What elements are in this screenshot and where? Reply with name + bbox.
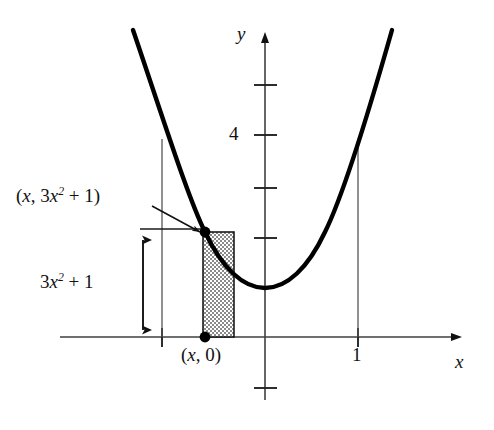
representative-rectangle xyxy=(203,232,234,337)
y-tick-four-label: 4 xyxy=(229,124,239,143)
base-point-dot xyxy=(200,332,211,343)
y-axis-label: y xyxy=(237,24,245,43)
x-tick-one-label: 1 xyxy=(352,345,362,364)
height-label: 3x2 + 1 xyxy=(40,272,94,291)
base-point-label: (x, 0) xyxy=(181,345,221,364)
upper-point-label: (x, 3x2 + 1) xyxy=(16,186,100,205)
graph-figure xyxy=(0,0,494,430)
upper-point-dot xyxy=(200,227,211,238)
parabola-curve xyxy=(133,30,392,288)
point-leader-line xyxy=(152,206,200,232)
x-axis-label: x xyxy=(455,352,463,371)
